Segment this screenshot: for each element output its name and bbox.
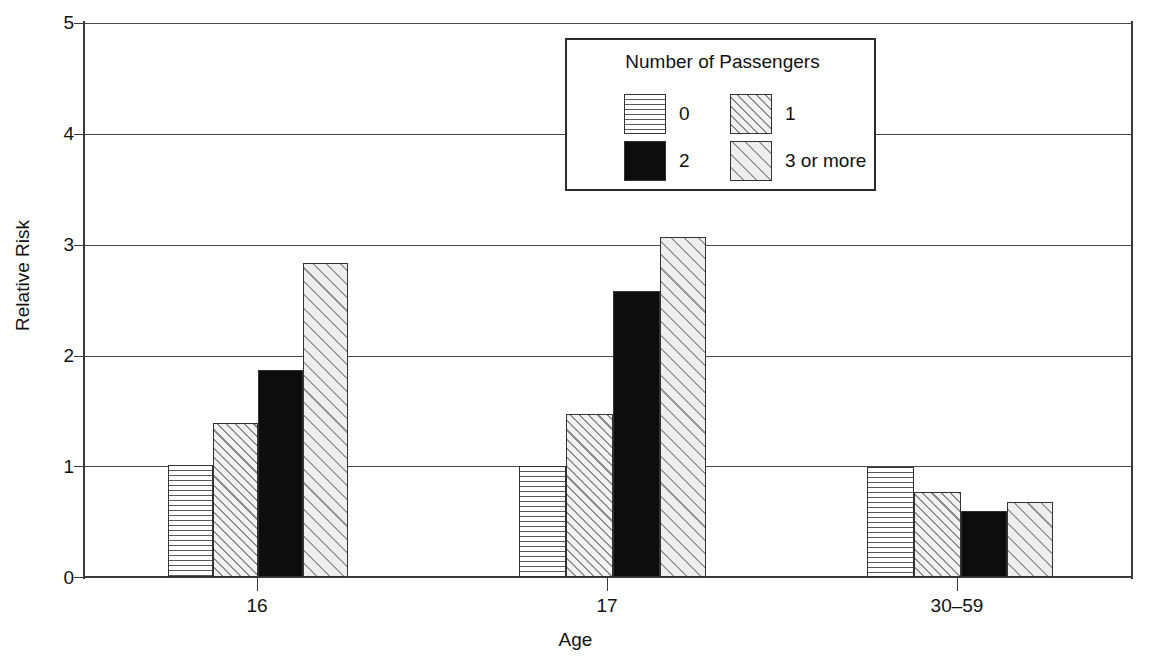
legend-swatch-0-icon [624,94,666,134]
legend-entry-1: 1 [730,94,796,134]
x-axis-title: Age [0,629,1151,650]
y-tick-3: 3 [30,235,74,254]
y-tick-2: 2 [30,346,74,365]
bar-17-passengers-2 [613,291,660,577]
bar-30-59-passengers-2 [961,511,1007,577]
x-tick-mark-16 [257,578,258,591]
y-tick-label-5: 5 [48,13,74,32]
x-tick-mark-17 [607,578,608,591]
y-tick-4: 4 [30,124,74,143]
y-tick-5: 5 [30,13,74,32]
legend-swatch-1-icon [730,94,772,134]
y-tick-label-0: 0 [48,568,74,587]
y-tick-label-2: 2 [48,346,74,365]
bar-16-passengers-2 [258,370,303,577]
legend-label-1: 1 [785,104,796,124]
legend-entry-0: 0 [624,94,690,134]
legend: Number of Passengers 0 1 2 3 or more [565,38,876,191]
legend-entry-3: 3 or more [730,141,866,181]
bar-16-passengers-0 [168,465,213,577]
legend-label-3: 3 or more [785,151,866,171]
x-tick-label-16: 16 [246,595,267,616]
bar-17-passengers-3-or-more [660,237,706,577]
legend-swatch-3-icon [730,141,772,181]
bar-chart-figure: Relative Risk 5 4 3 2 1 0 [0,0,1151,667]
legend-label-0: 0 [679,104,690,124]
x-tick-label-30-59: 30–59 [931,595,984,616]
y-tick-label-3: 3 [48,235,74,254]
y-tick-label-4: 4 [48,124,74,143]
bar-30-59-passengers-3-or-more [1007,502,1053,577]
y-tick-0: 0 [30,568,74,587]
bar-30-59-passengers-0 [867,467,914,577]
y-tick-label-1: 1 [48,457,74,476]
legend-title: Number of Passengers [567,51,878,73]
bar-16-passengers-3-or-more [303,263,348,577]
bar-30-59-passengers-1 [914,492,961,577]
legend-swatch-2-icon [624,141,666,181]
legend-entry-2: 2 [624,141,690,181]
x-tick-mark-30-59 [957,578,958,591]
bar-17-passengers-0 [519,466,566,577]
x-tick-label-17: 17 [596,595,617,616]
bar-17-passengers-1 [566,414,613,577]
y-tick-1: 1 [30,457,74,476]
bar-16-passengers-1 [213,423,258,577]
legend-label-2: 2 [679,151,690,171]
